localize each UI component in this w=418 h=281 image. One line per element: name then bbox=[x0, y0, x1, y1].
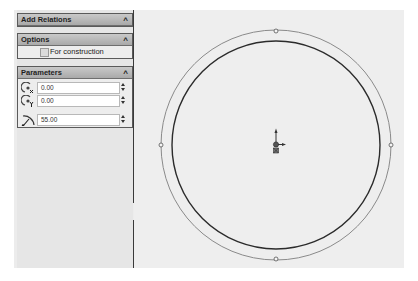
add-relations-section: Add Relations ˄ bbox=[17, 13, 133, 27]
center-y-spinner[interactable] bbox=[119, 95, 128, 106]
parameters-header[interactable]: Parameters ˄ bbox=[18, 67, 132, 79]
options-header[interactable]: Options ˄ bbox=[18, 34, 132, 46]
for-construction-label: For construction bbox=[50, 46, 104, 58]
center-y-row: 0.00 bbox=[18, 95, 132, 108]
solidworks-window: Add Relations ˄ Options ˄ For constructi… bbox=[14, 10, 404, 268]
for-construction-row[interactable]: For construction bbox=[18, 46, 132, 58]
radius-spinner[interactable] bbox=[119, 114, 128, 125]
radius-input[interactable]: 55.00 bbox=[37, 114, 120, 126]
double-chevron-up-icon[interactable]: ˄ bbox=[123, 67, 128, 78]
quadrant-point-bottom[interactable] bbox=[274, 257, 278, 261]
property-manager: Add Relations ˄ Options ˄ For constructi… bbox=[17, 10, 133, 268]
center-y-icon bbox=[21, 95, 35, 107]
sketch-canvas[interactable] bbox=[134, 10, 404, 268]
quadrant-point-right[interactable] bbox=[389, 143, 393, 147]
add-relations-title: Add Relations bbox=[21, 15, 71, 24]
graphics-area[interactable] bbox=[134, 10, 404, 268]
double-chevron-up-icon[interactable]: ˄ bbox=[123, 14, 128, 25]
sketch-origin-icon bbox=[273, 129, 286, 154]
center-x-input[interactable]: 0.00 bbox=[37, 82, 120, 94]
add-relations-header[interactable]: Add Relations ˄ bbox=[18, 14, 132, 26]
radius-row: 55.00 bbox=[18, 114, 132, 127]
quadrant-point-left[interactable] bbox=[159, 143, 163, 147]
radius-icon bbox=[21, 114, 35, 126]
center-x-spinner[interactable] bbox=[119, 82, 128, 93]
center-x-row: 0.00 bbox=[18, 82, 132, 95]
parameters-title: Parameters bbox=[21, 68, 62, 77]
center-x-icon bbox=[21, 82, 35, 94]
options-section: Options ˄ For construction bbox=[17, 33, 133, 59]
double-chevron-up-icon[interactable]: ˄ bbox=[123, 34, 128, 45]
options-title: Options bbox=[21, 35, 49, 44]
quadrant-point-top[interactable] bbox=[274, 29, 278, 33]
center-y-input[interactable]: 0.00 bbox=[37, 95, 120, 107]
for-construction-checkbox[interactable] bbox=[40, 48, 49, 57]
parameters-section: Parameters ˄ 0.00 0.00 bbox=[17, 66, 133, 128]
